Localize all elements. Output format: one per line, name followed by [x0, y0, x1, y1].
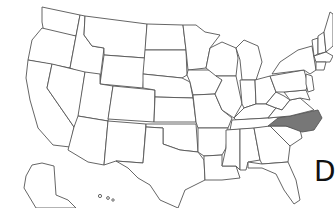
edge-label: D [314, 158, 336, 186]
state-kansas [154, 97, 196, 122]
state-florida [248, 162, 300, 204]
state-wyoming [100, 55, 145, 88]
state-north-dakota [145, 24, 186, 50]
state-colorado [108, 86, 155, 122]
state-new-york [272, 46, 316, 74]
state-hawaii [98, 194, 114, 201]
state-connecticut [316, 62, 326, 70]
state-wisconsin [206, 42, 238, 76]
state-new-jersey [306, 74, 314, 92]
state-michigan [236, 40, 262, 80]
state-new-mexico [104, 121, 146, 165]
state-indiana [240, 80, 256, 108]
state-south-dakota [143, 50, 187, 78]
state-maine [324, 12, 333, 52]
state-alaska [24, 163, 76, 208]
state-arkansas [198, 128, 228, 156]
